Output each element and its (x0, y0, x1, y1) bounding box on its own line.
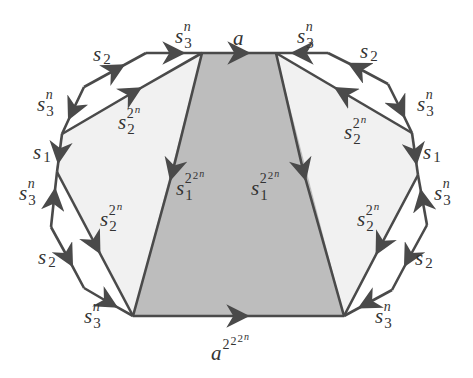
label-left-s1: s1 (33, 140, 51, 165)
label-right-s3n-lower: s3n (434, 176, 451, 208)
label-left-s2-top: s2 (93, 42, 111, 67)
group-presentation-diagram: a s3n s3n s2 s2 s3n s3n s22n s22n s1 s1 … (0, 0, 473, 378)
edge-right-s3n-lower (418, 175, 427, 225)
edge-left-s3n-lower (51, 172, 57, 227)
label-right-s2-bottom: s2 (415, 246, 433, 271)
label-bottom-left-s3n: s3n (84, 299, 101, 331)
label-top-left-s3n: s3n (175, 19, 192, 51)
label-top-right-s3n: s3n (297, 19, 314, 51)
edge-right-s2-top (328, 53, 388, 84)
label-left-s3n-lower: s3n (19, 176, 36, 208)
edge-left-s2-bottom (51, 227, 84, 288)
label-bottom-right-s3n: s3n (375, 299, 392, 331)
label-left-s3n-upper: s3n (37, 87, 54, 119)
label-right-s3n-upper: s3n (417, 87, 434, 119)
label-right-s2-top: s2 (360, 39, 378, 64)
label-bottom-a: a222n (211, 331, 249, 365)
label-right-s1: s1 (423, 140, 441, 165)
label-left-s2-bottom: s2 (38, 245, 56, 270)
label-top-a: a (233, 26, 244, 50)
